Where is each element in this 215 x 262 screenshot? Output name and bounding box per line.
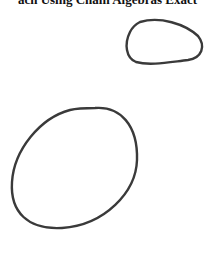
small-blob-shape (127, 20, 202, 64)
large-ellipse-shape (12, 108, 137, 228)
sketch-canvas (0, 0, 215, 262)
